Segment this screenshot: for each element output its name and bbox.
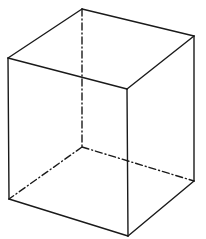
hidden-edge-F_bottom_back_hidden-G_bottom_right [82, 147, 194, 181]
visible-edge-A_top_left-B_top_back [8, 9, 82, 58]
diagram-canvas [0, 0, 206, 239]
visible-edge-D_top_front-H_bottom_front [127, 89, 128, 236]
visible-edge-E_bottom_left-H_bottom_front [9, 199, 128, 236]
rectangular-prism-diagram [0, 0, 206, 239]
hidden-edges-group [9, 9, 194, 199]
visible-edge-H_bottom_front-G_bottom_right [128, 181, 194, 236]
visible-edge-B_top_back-C_top_right [82, 9, 194, 36]
visible-edge-A_top_left-E_bottom_left [8, 58, 9, 199]
visible-edge-D_top_front-A_top_left [8, 58, 127, 89]
hidden-edge-F_bottom_back_hidden-E_bottom_left [9, 147, 82, 199]
visible-edge-C_top_right-D_top_front [127, 36, 194, 89]
visible-edges-group [8, 9, 194, 236]
